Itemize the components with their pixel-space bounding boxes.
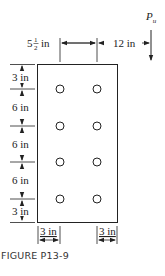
dim-top-left-unit: in bbox=[41, 37, 50, 49]
dim-left-3: 6 in bbox=[12, 138, 29, 150]
plate bbox=[38, 65, 118, 223]
connection-diagram: 5 1 2 in 12 in Pu 3 in 6 in 6 in 6 in 3 … bbox=[0, 0, 165, 276]
dim-left-1: 3 in bbox=[12, 71, 29, 83]
bolt bbox=[93, 85, 101, 93]
bolt bbox=[56, 195, 64, 203]
load-label: Pu bbox=[145, 10, 157, 25]
dim-bottom-right: 3 in bbox=[99, 225, 116, 237]
bolt bbox=[56, 85, 64, 93]
dim-left-4: 6 in bbox=[12, 174, 29, 186]
dim-top-right: 12 in bbox=[113, 37, 136, 49]
bolt bbox=[56, 122, 64, 130]
figure-caption: FIGURE P13-9 bbox=[1, 250, 69, 261]
bolt-group bbox=[56, 85, 101, 203]
dim-left-2: 6 in bbox=[12, 101, 29, 113]
bolt bbox=[56, 158, 64, 166]
dim-top-left-den: 2 bbox=[34, 44, 38, 52]
dim-top-left-whole: 5 bbox=[27, 37, 33, 49]
bolt bbox=[93, 195, 101, 203]
dim-top-left-num: 1 bbox=[34, 36, 38, 44]
bolt bbox=[93, 158, 101, 166]
dim-bottom-left: 3 in bbox=[40, 225, 57, 237]
bolt bbox=[93, 122, 101, 130]
top-dimensions bbox=[60, 38, 149, 62]
dim-left-5: 3 in bbox=[12, 205, 29, 217]
